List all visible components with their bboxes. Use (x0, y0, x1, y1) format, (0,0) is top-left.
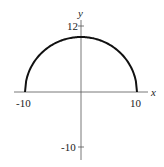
x-tick-label-10: 10 (130, 97, 142, 109)
semicircle-plot: y x 12 -10 -10 10 (0, 0, 164, 167)
y-tick-label-neg10: -10 (61, 141, 76, 153)
x-axis-label: x (150, 86, 156, 98)
y-tick-label-12: 12 (67, 20, 78, 32)
y-axis-label: y (77, 7, 83, 19)
x-tick-label-neg10: -10 (16, 97, 31, 109)
